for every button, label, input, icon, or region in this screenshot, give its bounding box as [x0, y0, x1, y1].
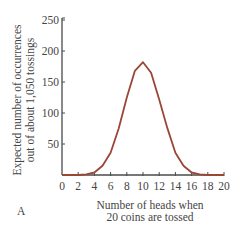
x-tick-label: 8 — [124, 180, 130, 192]
x-tick-label: 16 — [186, 180, 198, 192]
distribution-curve — [62, 62, 224, 175]
x-tick-label: 10 — [137, 180, 149, 192]
y-tick-label: 50 — [48, 138, 60, 150]
x-axis-label-line-1: Number of heads when — [80, 199, 220, 211]
x-axis-label-line-2: 20 coins are tossed — [80, 211, 220, 223]
x-tick-label: 0 — [59, 180, 65, 192]
x-tick-label: 18 — [202, 180, 214, 192]
x-tick-label: 12 — [153, 180, 165, 192]
panel-label: A — [17, 205, 25, 217]
y-axis-label-line-1: Expected number of occurrences — [11, 24, 24, 175]
x-tick-label: 6 — [108, 180, 114, 192]
y-axis-label: Expected number of occurrences out of ab… — [2, 20, 46, 180]
x-tick-label: 2 — [75, 180, 81, 192]
x-tick-label: 4 — [92, 180, 98, 192]
y-axis-label-line-2: out of about 1,050 tossings — [24, 24, 37, 175]
x-tick-label: 20 — [218, 180, 230, 192]
x-axis-label: Number of heads when 20 coins are tossed — [80, 199, 220, 223]
x-tick-label: 14 — [170, 180, 182, 192]
